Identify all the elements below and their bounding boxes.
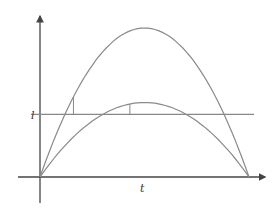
short-parabola <box>40 103 249 178</box>
diagram: l t <box>0 0 279 213</box>
level-label: l <box>31 109 35 122</box>
x-axis-label: t <box>140 182 145 195</box>
